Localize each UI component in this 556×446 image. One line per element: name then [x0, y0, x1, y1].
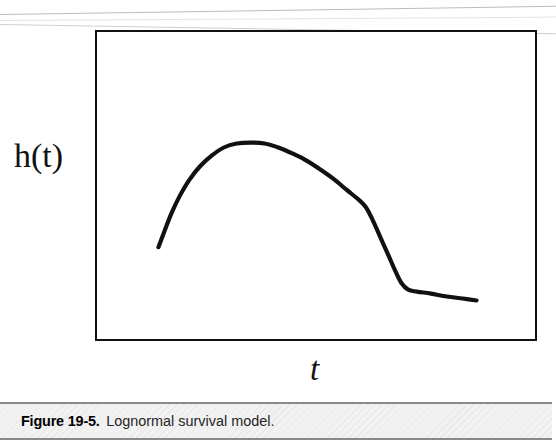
- y-axis-label: h(t): [14, 139, 63, 173]
- figure-caption: Figure 19-5.Lognormal survival model.: [21, 412, 274, 430]
- plot-frame: [95, 30, 537, 341]
- figure-caption-number: Figure 19-5.: [21, 412, 100, 429]
- hazard-curve-svg: [97, 32, 535, 339]
- x-axis-label: t: [310, 353, 319, 386]
- figure-caption-bar: Figure 19-5.Lognormal survival model.: [0, 402, 552, 440]
- scan-artifact-line: [0, 17, 556, 21]
- scan-artifact-line: [0, 6, 556, 15]
- figure-caption-title: Lognormal survival model.: [106, 412, 274, 429]
- hazard-curve-path: [158, 143, 476, 301]
